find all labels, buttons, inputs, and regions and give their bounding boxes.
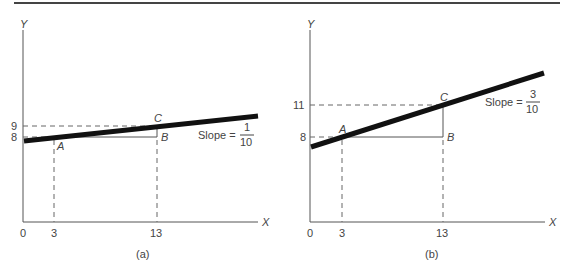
x-axis-label: X <box>548 216 557 228</box>
slope-label: Slope = <box>485 96 523 108</box>
y-axis-label: Y <box>20 18 28 30</box>
figure: Y X 9 8 0 3 13 A B C Slope = 1 10 (a) Y <box>0 0 574 274</box>
y-axis-label: Y <box>307 18 315 30</box>
x-tick-0: 0 <box>20 227 26 239</box>
x-tick-13: 13 <box>436 227 448 239</box>
point-c-label: C <box>154 112 162 124</box>
line-b <box>311 73 544 147</box>
slope-denominator: 10 <box>240 136 252 148</box>
point-a-label: A <box>338 123 346 135</box>
y-tick-8: 8 <box>300 131 306 143</box>
slope-label: Slope = <box>198 129 236 141</box>
panel-b: Y X 11 8 0 3 13 A B C Slope = 3 10 (b) <box>293 18 557 260</box>
x-tick-0: 0 <box>307 227 313 239</box>
point-c-label: C <box>440 91 448 103</box>
caption-b: (b) <box>425 248 438 260</box>
y-tick-8: 8 <box>11 131 17 143</box>
x-axis-label: X <box>261 216 270 228</box>
point-b-label: B <box>161 131 168 143</box>
y-tick-11: 11 <box>293 99 304 111</box>
slope-numerator: 3 <box>530 88 536 100</box>
panel-a: Y X 9 8 0 3 13 A B C Slope = 1 10 (a) <box>11 18 270 260</box>
slope-numerator: 1 <box>244 121 250 133</box>
x-tick-13: 13 <box>150 227 162 239</box>
x-tick-3: 3 <box>51 227 57 239</box>
point-b-label: B <box>447 131 454 143</box>
caption-a: (a) <box>136 248 149 260</box>
point-a-label: A <box>56 140 64 152</box>
slope-denominator: 10 <box>526 103 538 115</box>
x-tick-3: 3 <box>339 227 345 239</box>
